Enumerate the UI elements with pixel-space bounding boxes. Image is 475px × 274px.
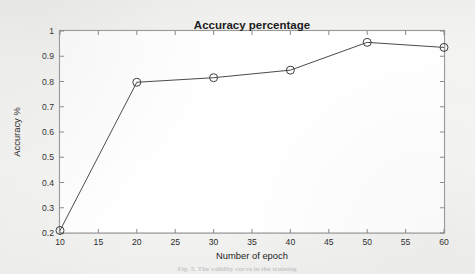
x-tick-label: 20	[132, 237, 142, 247]
y-tick-label: 0.6	[42, 127, 54, 137]
y-tick-label: 0.7	[42, 102, 54, 112]
y-tick-label: 0.4	[42, 178, 54, 188]
x-tick-label: 50	[362, 237, 372, 247]
accuracy-line-chart: 1015202530354045505560 0.20.30.40.50.60.…	[0, 0, 475, 274]
x-tick-label: 60	[439, 237, 449, 247]
y-tick-label: 0.9	[42, 51, 54, 61]
figure-caption: Fig. 5. The validity curve in the traini…	[177, 265, 297, 273]
figure-container: 1015202530354045505560 0.20.30.40.50.60.…	[0, 0, 475, 274]
x-tick-label: 55	[401, 237, 411, 247]
x-tick-label: 45	[324, 237, 334, 247]
x-axis-tick-labels: 1015202530354045505560	[55, 237, 449, 247]
plot-area-border	[60, 31, 445, 234]
x-tick-label: 15	[94, 237, 104, 247]
y-tick-label: 1	[49, 26, 54, 36]
y-tick-label: 0.2	[42, 228, 54, 238]
x-tick-label: 10	[55, 237, 65, 247]
x-tick-label: 35	[247, 237, 257, 247]
y-axis-label: Accuracy %	[11, 107, 22, 157]
y-tick-label: 0.5	[42, 152, 54, 162]
x-axis-label: Number of epoch	[216, 250, 288, 261]
x-tick-label: 30	[209, 237, 219, 247]
x-tick-label: 40	[286, 237, 296, 247]
y-axis-tick-labels: 0.20.30.40.50.60.70.80.91	[42, 26, 54, 238]
y-tick-label: 0.3	[42, 203, 54, 213]
x-tick-label: 25	[170, 237, 180, 247]
chart-title: Accuracy percentage	[194, 19, 310, 31]
y-tick-label: 0.8	[42, 77, 54, 87]
